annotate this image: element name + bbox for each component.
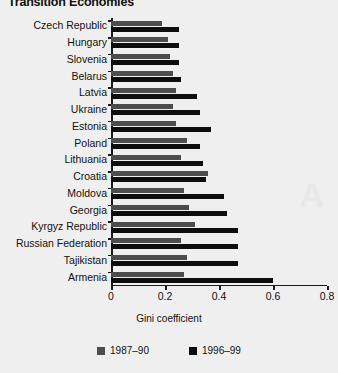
y-axis-label: Georgia	[0, 205, 107, 216]
chart-container: Transition Economies A Czech RepublicHun…	[0, 0, 338, 373]
bar	[111, 21, 162, 26]
bar	[111, 194, 224, 199]
bar	[111, 60, 179, 65]
bar-group	[111, 54, 327, 71]
bar-group	[111, 188, 327, 205]
bar-group	[111, 205, 327, 222]
chart-legend: 1987–901996–99	[0, 345, 338, 356]
bar	[111, 71, 173, 76]
bar	[111, 255, 187, 260]
bar	[111, 127, 211, 132]
bar-group	[111, 21, 327, 38]
bar	[111, 228, 238, 233]
bar	[111, 27, 179, 32]
bar	[111, 278, 273, 283]
bar-group	[111, 255, 327, 272]
y-axis-label: Ukraine	[0, 104, 107, 115]
x-axis-tick-label: 0	[96, 290, 126, 302]
y-axis-label: Slovenia	[0, 54, 107, 65]
bar	[111, 77, 181, 82]
bar	[111, 188, 184, 193]
y-axis-label: Lithuania	[0, 154, 107, 165]
y-axis-label: Croatia	[0, 171, 107, 182]
y-axis-label: Latvia	[0, 87, 107, 98]
bar-group	[111, 71, 327, 88]
bar-group	[111, 238, 327, 255]
y-axis-label: Poland	[0, 138, 107, 149]
bar	[111, 54, 170, 59]
x-axis-tick-label: 0.8	[312, 290, 338, 302]
bar	[111, 238, 181, 243]
bar-group	[111, 121, 327, 138]
y-axis-label: Kyrgyz Republic	[0, 221, 107, 232]
bar	[111, 211, 227, 216]
bar	[111, 161, 203, 166]
bar	[111, 43, 179, 48]
bar	[111, 261, 238, 266]
bar	[111, 272, 184, 277]
bar	[111, 138, 187, 143]
y-axis-label: Belarus	[0, 71, 107, 82]
x-axis-tick-label: 0.2	[150, 290, 180, 302]
bar-group	[111, 222, 327, 239]
bar	[111, 121, 176, 126]
legend-item[interactable]: 1996–99	[189, 345, 241, 356]
bar	[111, 244, 238, 249]
x-axis-title: Gini coefficient	[0, 313, 338, 324]
bar	[111, 110, 200, 115]
plot-area	[111, 18, 327, 286]
y-axis-label: Hungary	[0, 37, 107, 48]
y-axis-label: Russian Federation	[0, 238, 107, 249]
bar-group	[111, 104, 327, 121]
bar-group	[111, 155, 327, 172]
legend-label: 1996–99	[202, 345, 241, 356]
bar	[111, 144, 200, 149]
y-axis-label: Czech Republic	[0, 20, 107, 31]
x-axis-tick-label: 0.4	[204, 290, 234, 302]
bar-group	[111, 171, 327, 188]
legend-label: 1987–90	[110, 345, 149, 356]
bar	[111, 88, 176, 93]
bar	[111, 94, 197, 99]
legend-swatch-icon	[97, 347, 105, 355]
y-axis-label: Moldova	[0, 188, 107, 199]
bar	[111, 155, 181, 160]
legend-swatch-icon	[189, 347, 197, 355]
y-axis-label: Armenia	[0, 272, 107, 283]
bar	[111, 177, 206, 182]
bar	[111, 205, 189, 210]
legend-item[interactable]: 1987–90	[97, 345, 149, 356]
bar	[111, 37, 168, 42]
y-axis-label: Estonia	[0, 121, 107, 132]
bar	[111, 104, 173, 109]
x-axis-tick-label: 0.6	[258, 290, 288, 302]
y-axis-label: Tajikistan	[0, 255, 107, 266]
bar-group	[111, 88, 327, 105]
bar	[111, 222, 195, 227]
bar	[111, 171, 208, 176]
bar-group	[111, 138, 327, 155]
bar-group	[111, 37, 327, 54]
